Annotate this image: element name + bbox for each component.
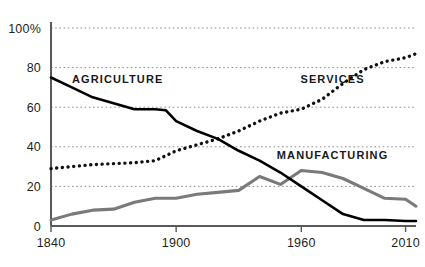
- y-tick-label-0: 0: [34, 220, 41, 234]
- x-axis: [51, 226, 416, 232]
- x-tick-label-1960: 1960: [287, 236, 316, 250]
- series-annotations: AGRICULTURESERVICESMANUFACTURING: [72, 73, 388, 160]
- x-tick-labels: 1840190019602010: [37, 236, 420, 250]
- x-tick-label-1900: 1900: [162, 236, 191, 250]
- series-label-manufacturing: MANUFACTURING: [277, 149, 388, 161]
- chart-container: 100%806040200 1840190019602010 AGRICULTU…: [0, 0, 425, 267]
- y-tick-label-100%: 100%: [8, 22, 41, 36]
- series-line-manufacturing: [51, 171, 416, 221]
- y-tick-label-80: 80: [27, 61, 41, 75]
- y-tick-label-20: 20: [27, 180, 41, 194]
- line-chart: 100%806040200 1840190019602010 AGRICULTU…: [0, 0, 425, 267]
- x-tick-label-1840: 1840: [37, 236, 66, 250]
- x-tick-label-2010: 2010: [391, 236, 420, 250]
- series-label-services: SERVICES: [300, 73, 364, 85]
- gridlines: [51, 28, 416, 186]
- series-label-agriculture: AGRICULTURE: [72, 73, 163, 85]
- y-tick-labels: 100%806040200: [8, 22, 41, 234]
- y-tick-label-60: 60: [27, 101, 41, 115]
- y-tick-label-40: 40: [27, 140, 41, 154]
